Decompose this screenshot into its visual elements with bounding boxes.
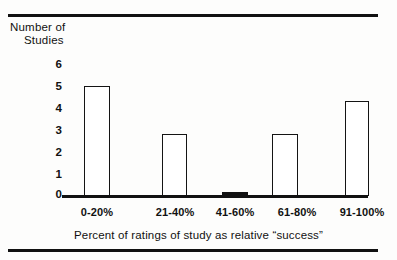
bar-61-80 [272,134,298,196]
x-axis-tick-label: 41-60% [216,206,255,218]
x-axis-baseline [62,195,368,198]
y-axis-tick-label: 0 [36,189,62,200]
bar-21-40 [162,134,187,196]
x-axis-tick-label: 91-100% [340,206,385,218]
y-axis-tick-label: 1 [36,169,62,180]
bar-0-20 [84,86,110,196]
x-axis-tick-label: 21-40% [156,206,195,218]
bar-chart-figure: Number of Studies 6 5 4 3 2 1 0 0-20% 21… [0,0,397,260]
y-axis-tick-label: 2 [36,147,62,158]
y-axis-tick-label: 3 [36,125,62,136]
x-axis-tick-label: 61-80% [278,206,317,218]
x-axis-tick-label: 0-20% [81,206,113,218]
y-axis-tick-label: 6 [36,59,62,70]
x-axis-title: Percent of ratings of study as relative … [0,229,397,241]
y-axis-tick-label: 4 [36,103,62,114]
y-axis-tick-label: 5 [36,81,62,92]
bar-91-100 [345,101,369,196]
plot-area: 6 5 4 3 2 1 0 0-20% 21-40% 41-60% 61-80%… [0,0,397,260]
